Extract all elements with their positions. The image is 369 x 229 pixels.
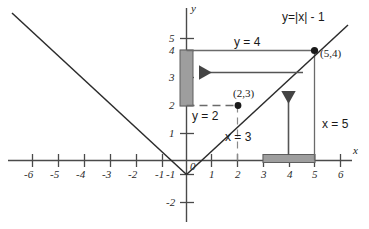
x-tick-label-3: 3	[261, 169, 267, 180]
x-tick-label-5: 5	[312, 169, 318, 180]
axes-group	[8, 8, 352, 222]
x-tick-label-1: 1	[209, 169, 215, 180]
label-point-5-4: (5,4)	[320, 48, 341, 59]
y-tick-label-3: 3	[169, 72, 175, 83]
x-tick-label-neg3: -3	[102, 169, 111, 180]
coordinate-plane-graphic	[0, 0, 369, 229]
x-tick-label-neg1: -1	[155, 169, 164, 180]
label-x-equals-5: x = 5	[322, 118, 348, 130]
y-tick-label-2: 2	[169, 100, 175, 111]
x-tick-label-neg5: -5	[50, 169, 59, 180]
label-x-equals-3: x = 3	[225, 131, 251, 143]
x-tick-label-2: 2	[235, 169, 241, 180]
y-tick-label-neg2: -2	[166, 197, 175, 208]
x-axis-interval-bar	[263, 155, 315, 163]
x-tick-label-neg4: -4	[76, 169, 85, 180]
label-function-abs-value: y=|x| - 1	[282, 11, 325, 23]
x-tick-label-neg6: -6	[24, 169, 33, 180]
origin-label: 0	[190, 161, 196, 172]
point-5-4-marker	[311, 47, 318, 54]
label-y-equals-2: y = 2	[192, 110, 218, 122]
figure-canvas: -6 -5 -4 -3 -2 -1 1 2 3 4 5 6 5 4 3 2 1 …	[0, 0, 369, 229]
x-axis-name-label: x	[353, 145, 358, 156]
y-axis-interval-bar	[180, 50, 193, 106]
y-tick-label-1: 1	[169, 128, 175, 139]
x-tick-label-6: 6	[338, 169, 344, 180]
point-2-3-marker	[235, 102, 242, 109]
y-tick-label-5: 5	[169, 33, 175, 44]
y-tick-label-4: 4	[169, 45, 175, 56]
x-tick-label-4: 4	[287, 169, 293, 180]
y-axis-name-label: y	[191, 3, 196, 14]
label-y-equals-4: y = 4	[234, 36, 260, 48]
y-tick-label-neg1: -1	[166, 169, 175, 180]
x-tick-label-neg2: -2	[128, 169, 137, 180]
label-point-2-3: (2,3)	[233, 88, 254, 99]
